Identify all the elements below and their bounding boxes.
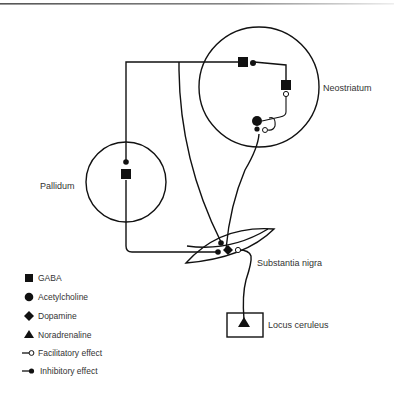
legend-label: Noradrenaline (38, 330, 92, 340)
locus-ceruleus-label: Locus ceruleus (268, 320, 329, 330)
pathway-striatonigral (179, 62, 221, 242)
facilitatory-terminal-icon (235, 247, 240, 252)
facilitatory-terminal-icon (263, 128, 268, 133)
pathway-nigrostriatal (226, 134, 259, 249)
inhibitory-terminal-icon (215, 249, 221, 255)
inhibitory-terminal-icon (218, 240, 224, 246)
inhibitory-terminal-icon (123, 159, 129, 165)
legend-label: Inhibitory effect (40, 366, 98, 376)
pathway-ach-loop (262, 93, 286, 121)
inhibitory-terminal-icon (250, 60, 256, 66)
inhibitory-terminal-icon (254, 126, 259, 131)
gaba-neuron-icon (121, 169, 131, 179)
legend-label: Dopamine (38, 311, 77, 321)
neostriatum-label: Neostriatum (323, 83, 372, 93)
basal-ganglia-diagram: Neostriatum Pallidum Substantia nigra Lo… (0, 0, 394, 393)
legend-label: Acetylcholine (38, 292, 88, 302)
facilitatory-terminal-icon (283, 91, 288, 96)
pallidum-label: Pallidum (40, 181, 75, 191)
substantia-nigra-label: Substantia nigra (257, 258, 322, 268)
legend-label: GABA (38, 273, 62, 283)
diamond-icon (24, 311, 34, 321)
triangle-icon (24, 330, 34, 338)
top-rule (0, 3, 394, 5)
square-icon (25, 274, 33, 282)
circle-icon (25, 293, 34, 302)
noradrenaline-neuron-icon (238, 317, 250, 327)
pathway-neostriatum-internal (254, 62, 286, 80)
open-circle-terminal-icon (22, 351, 34, 356)
pathway-ceruleus-to-nigra (239, 250, 251, 320)
legend: GABA Acetylcholine Dopamine Noradrenalin… (22, 273, 103, 376)
legend-label: Facilitatory effect (38, 348, 103, 358)
gaba-neuron-icon (281, 80, 291, 90)
filled-circle-terminal-icon (22, 368, 34, 373)
acetylcholine-neuron-icon (252, 116, 262, 126)
gaba-neuron-icon (238, 57, 248, 67)
pathway-pallidum-to-nigra (126, 180, 218, 252)
